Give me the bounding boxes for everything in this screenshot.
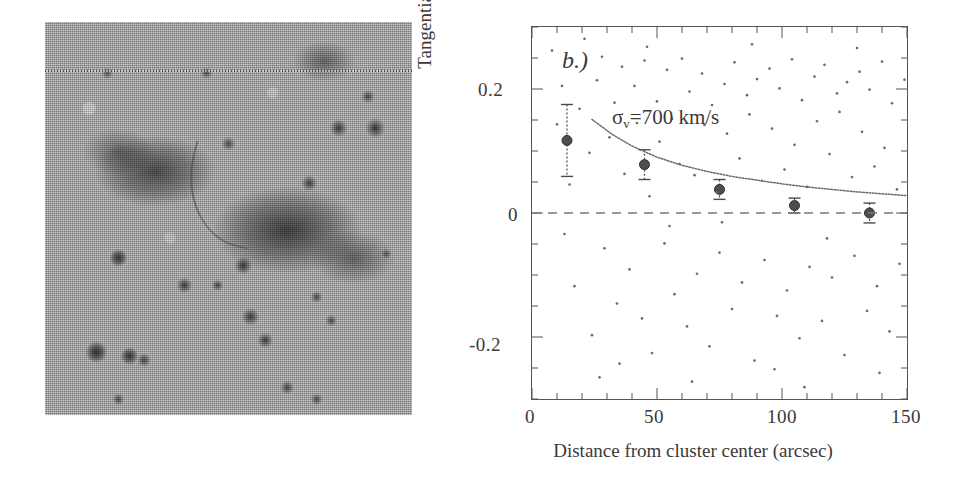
scatter-point [623,173,626,176]
scatter-point [731,308,734,311]
scatter-point [751,43,754,46]
scatter-point [691,380,694,383]
scatter-point [748,113,751,116]
scatter-point [693,174,696,177]
polarization-plot-panel: 0.2 0 -0.2 0 50 100 150 Tangential polar… [420,0,955,484]
cluster-field-image-panel [45,22,412,415]
scatter-point [663,242,666,245]
ytick-label-1: 0 [508,204,518,226]
scatter-point [651,352,654,355]
scatter-point [643,59,646,62]
scatter-point [846,81,849,84]
scatter-point [578,107,581,110]
scatter-point [866,310,869,313]
scatter-point [746,94,749,97]
scatter-point [786,289,789,292]
scatter-point [641,317,644,320]
scatter-point [696,272,699,275]
xtick-label-0: 0 [525,406,535,428]
scatter-point [831,276,834,279]
scatter-point [783,168,786,171]
scatter-point [588,152,591,155]
sigma-value: =700 km/s [630,105,719,129]
binned-data-point [640,160,650,170]
ytick-label-0: 0.2 [478,79,503,101]
scatter-point [851,176,854,179]
xtick-label-3: 150 [891,406,921,428]
scatter-point [686,325,689,328]
scatter-point [828,153,831,156]
scatter-point [726,132,729,135]
scatter-point [776,315,779,318]
scatter-point [718,251,721,254]
scatter-point [853,254,856,257]
scatter-point [633,85,636,88]
scatter-point [603,247,606,250]
scatter-point [771,127,774,130]
xtick-label-2: 100 [767,406,797,428]
scatter-point [883,147,886,150]
scatter-point [843,354,846,357]
scatter-point [733,61,736,64]
scatter-point [806,186,809,189]
scatter-point [648,195,651,198]
scatter-point [598,376,601,379]
scatter-point [658,140,661,143]
ytick-label-2: -0.2 [469,334,501,356]
binned-data-point [790,201,800,211]
scatter-point [628,268,631,271]
scatter-point [723,83,726,86]
scatter-point [836,92,839,95]
plot-frame: b.) σv=700 km/s [531,26,908,400]
scatter-point [763,259,766,262]
scatter-point [568,183,571,186]
scatter-point [768,67,771,70]
scatter-point [551,49,554,52]
scatter-point [668,225,671,228]
scatter-point [888,330,891,333]
scatter-point [821,320,824,323]
scan-artifact-line [45,70,412,72]
scatter-point [858,70,861,73]
scatter-point [621,65,624,68]
scatter-point [873,165,876,168]
scatter-point [563,233,566,236]
scatter-point [561,85,564,88]
scatter-point [898,262,901,265]
scatter-point [583,37,586,40]
sigma-symbol: σ [612,105,623,129]
scatter-point [701,72,704,75]
scatter-point [778,87,781,90]
scatter-point [798,337,801,340]
scatter-point [856,47,859,50]
panel-label-b: b.) [562,47,588,74]
scatter-point [903,78,906,81]
scatter-point [838,111,841,114]
scatter-point [608,136,611,139]
scatter-point [823,63,826,66]
scatter-point [756,78,759,81]
scatter-point [673,293,676,296]
scatter-point [688,90,691,93]
scatter-point [773,368,776,371]
scatter-point [678,163,681,166]
scatter-point [681,57,684,60]
scatter-point [808,266,811,269]
y-axis-title: Tangential polarization [414,0,436,96]
scatter-point [891,102,894,105]
scatter-point [656,100,659,103]
xtick-label-1: 50 [644,406,664,428]
scatter-point [813,75,816,78]
scatter-point [596,79,599,82]
scatter-point [793,143,796,146]
scatter-point [816,120,819,123]
x-axis-title: Distance from cluster center (arcsec) [458,440,928,462]
scatter-point [601,55,604,58]
scatter-point [738,157,741,160]
scatter-point [716,191,719,194]
scatter-point [666,68,669,71]
scatter-point [721,221,724,224]
scatter-point [761,179,764,182]
scatter-point [801,99,804,102]
plot-canvas [532,27,907,399]
